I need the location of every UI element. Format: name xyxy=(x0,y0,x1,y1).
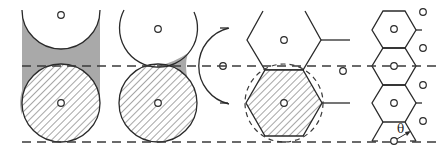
center-marker xyxy=(155,26,162,33)
panel-hexagon-with-circumcircle xyxy=(220,11,350,142)
center-marker xyxy=(391,138,398,145)
center-marker xyxy=(58,12,65,19)
panel-triangular-circle-packing xyxy=(119,10,229,142)
angle-arrowhead-icon xyxy=(405,131,411,136)
hexagon-4-edge xyxy=(372,122,383,141)
center-marker xyxy=(58,100,65,107)
center-marker xyxy=(420,9,427,16)
center-marker xyxy=(155,100,162,107)
center-marker xyxy=(420,45,427,52)
center-marker xyxy=(391,26,398,33)
angle-label: θ xyxy=(397,122,404,136)
center-marker xyxy=(391,100,398,107)
panel-hexagon-column: θ xyxy=(372,9,426,145)
packing-diagram: θ xyxy=(0,0,445,150)
center-marker xyxy=(391,63,398,70)
center-marker xyxy=(340,68,347,75)
center-marker xyxy=(420,82,427,89)
center-marker xyxy=(420,118,427,125)
center-marker xyxy=(281,100,288,107)
panel-square-circle-packing xyxy=(20,10,100,142)
center-marker xyxy=(281,37,288,44)
